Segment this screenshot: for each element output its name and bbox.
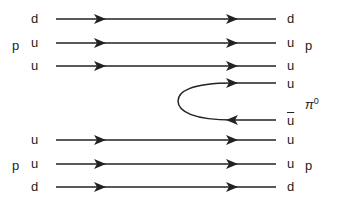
antiquark-label: u bbox=[287, 114, 294, 127]
quark-label: d bbox=[31, 12, 38, 25]
quark-label: u bbox=[287, 59, 294, 72]
quark-label: u bbox=[31, 59, 38, 72]
proton-label: p bbox=[12, 39, 19, 52]
quark-label: u bbox=[31, 157, 38, 170]
pair-creation-loop bbox=[178, 83, 276, 120]
quark-label: d bbox=[31, 180, 38, 193]
proton-label: p bbox=[305, 39, 312, 52]
quark-label: u bbox=[287, 133, 294, 146]
pion-label: π0 bbox=[305, 95, 319, 111]
quark-label: d bbox=[287, 180, 294, 193]
proton-label: p bbox=[12, 159, 19, 172]
quark-label: u bbox=[31, 133, 38, 146]
quark-label: d bbox=[287, 12, 294, 25]
proton-label: p bbox=[305, 159, 312, 172]
quark-lines bbox=[0, 0, 337, 203]
quark-label: u bbox=[287, 157, 294, 170]
quark-label: u bbox=[287, 36, 294, 49]
quark-label: u bbox=[31, 36, 38, 49]
quark-label: u bbox=[287, 77, 294, 90]
